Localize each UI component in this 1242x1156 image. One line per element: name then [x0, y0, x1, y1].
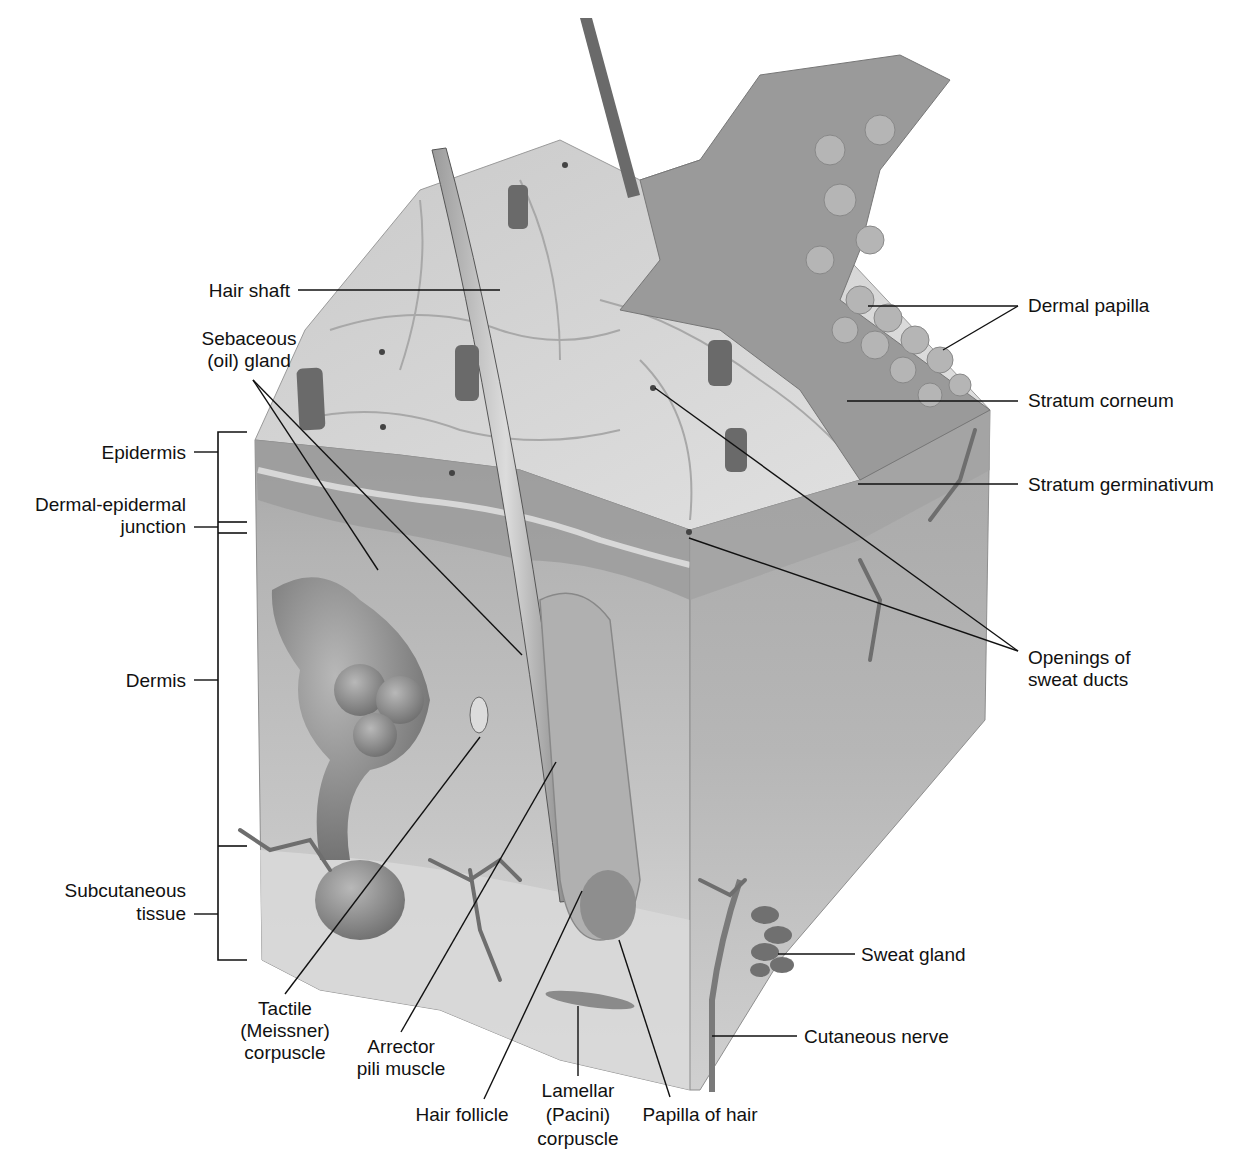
label-sweat-duct-openings-1: Openings of: [1028, 647, 1131, 668]
label-arrector-pili-1: Arrector: [367, 1036, 435, 1057]
skin-cross-section-diagram: Hair shaft Sebaceous (oil) gland Epiderm…: [0, 0, 1242, 1156]
label-hair-follicle: Hair follicle: [416, 1104, 509, 1125]
label-lamellar-corpuscle-1: Lamellar: [542, 1080, 616, 1101]
label-dermal-papilla: Dermal papilla: [1028, 295, 1150, 316]
label-dermal-epidermal-junction-1: Dermal-epidermal: [35, 494, 186, 515]
label-sweat-gland: Sweat gland: [861, 944, 966, 965]
label-subcutaneous-tissue-2: tissue: [136, 903, 186, 924]
layer-bracket: [218, 432, 247, 960]
label-sweat-duct-openings-2: sweat ducts: [1028, 669, 1128, 690]
label-stratum-germinativum: Stratum germinativum: [1028, 474, 1214, 495]
skin-block: [240, 18, 990, 1092]
label-tactile-corpuscle-3: corpuscle: [244, 1042, 325, 1063]
label-arrector-pili-2: pili muscle: [357, 1058, 446, 1079]
label-lamellar-corpuscle-2: (Pacini): [546, 1104, 610, 1125]
label-dermis: Dermis: [126, 670, 186, 691]
label-hair-shaft: Hair shaft: [209, 280, 291, 301]
label-papilla-of-hair: Papilla of hair: [642, 1104, 758, 1125]
tactile-corpuscle: [470, 697, 488, 733]
label-tactile-corpuscle-1: Tactile: [258, 998, 312, 1019]
label-epidermis: Epidermis: [102, 442, 186, 463]
label-tactile-corpuscle-2: (Meissner): [240, 1020, 330, 1041]
label-subcutaneous-tissue-1: Subcutaneous: [65, 880, 187, 901]
label-dermal-epidermal-junction-2: junction: [120, 516, 187, 537]
label-stratum-corneum: Stratum corneum: [1028, 390, 1174, 411]
label-sebaceous-gland-1: Sebaceous: [201, 328, 296, 349]
label-sebaceous-gland-2: (oil) gland: [207, 350, 290, 371]
label-cutaneous-nerve: Cutaneous nerve: [804, 1026, 949, 1047]
label-lamellar-corpuscle-3: corpuscle: [537, 1128, 618, 1149]
